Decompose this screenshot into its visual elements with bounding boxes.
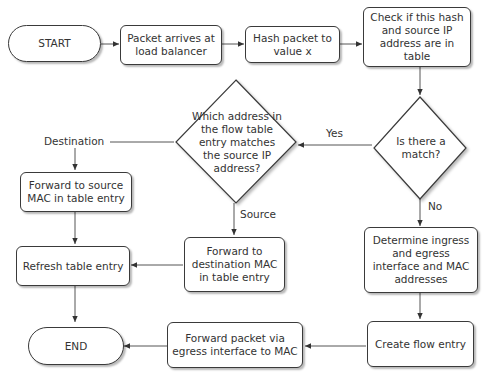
determine-interfaces-step: Determine ingress and egress interface a… [364, 227, 478, 293]
forward-source-mac-label: Forward to source MAC in table entry [25, 179, 127, 205]
create-flow-label: Create flow entry [375, 338, 466, 351]
forward-dest-mac-step: Forward to destination MAC in table entr… [184, 237, 285, 292]
destination-edge-label: Destination [44, 135, 104, 148]
packet-arrives-label: Packet arrives at load balancer [125, 32, 217, 58]
forward-dest-mac-label: Forward to destination MAC in table entr… [189, 245, 280, 284]
is-match-decision: Is there a match? [395, 125, 447, 171]
start-label: START [38, 37, 70, 50]
check-table-step: Check if this hash and source IP address… [363, 7, 471, 67]
refresh-entry-step: Refresh table entry [16, 246, 130, 286]
check-table-label: Check if this hash and source IP address… [368, 11, 466, 63]
yes-edge-label: Yes [326, 127, 343, 140]
end-label: END [65, 340, 88, 353]
forward-source-mac-step: Forward to source MAC in table entry [20, 172, 132, 212]
packet-arrives-step: Packet arrives at load balancer [120, 25, 222, 65]
start-terminal: START [8, 25, 101, 62]
determine-interfaces-label: Determine ingress and egress interface a… [369, 234, 473, 286]
hash-packet-step: Hash packet to value x [245, 26, 340, 63]
end-terminal: END [28, 327, 124, 365]
hash-packet-label: Hash packet to value x [250, 32, 335, 58]
which-address-decision: Which address in the flow table entry ma… [192, 95, 282, 190]
refresh-entry-label: Refresh table entry [23, 260, 124, 273]
forward-egress-label: Forward packet via egress interface to M… [172, 332, 298, 358]
is-match-label: Is there a match? [395, 135, 447, 161]
which-address-label: Which address in the flow table entry ma… [192, 110, 282, 175]
create-flow-step: Create flow entry [367, 321, 474, 367]
no-edge-label: No [428, 200, 442, 213]
forward-egress-step: Forward packet via egress interface to M… [167, 322, 303, 368]
source-edge-label: Source [240, 208, 276, 221]
